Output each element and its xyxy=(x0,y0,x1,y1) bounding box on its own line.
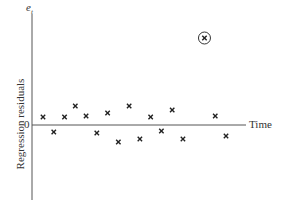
residual-point xyxy=(73,104,77,108)
residual-point xyxy=(127,104,131,108)
residual-point xyxy=(116,140,120,144)
residual-point xyxy=(170,108,174,112)
y-axis-symbol: et xyxy=(26,1,33,16)
residual-point xyxy=(213,114,217,118)
residual-point xyxy=(181,137,185,141)
residual-point xyxy=(138,137,142,141)
residual-point xyxy=(62,115,66,119)
residual-point xyxy=(105,111,109,115)
residual-point xyxy=(84,114,88,118)
residual-point xyxy=(224,134,228,138)
residual-point xyxy=(95,131,99,135)
x-axis-label: Time xyxy=(249,118,272,130)
data-points xyxy=(41,32,228,144)
outlier-point xyxy=(198,32,210,44)
residual-point xyxy=(148,115,152,119)
residual-point xyxy=(41,115,45,119)
y-zero-tick-label: 0 xyxy=(24,118,30,130)
residual-scatter-chart xyxy=(0,0,282,200)
residual-point xyxy=(159,129,163,133)
residual-point xyxy=(52,130,56,134)
